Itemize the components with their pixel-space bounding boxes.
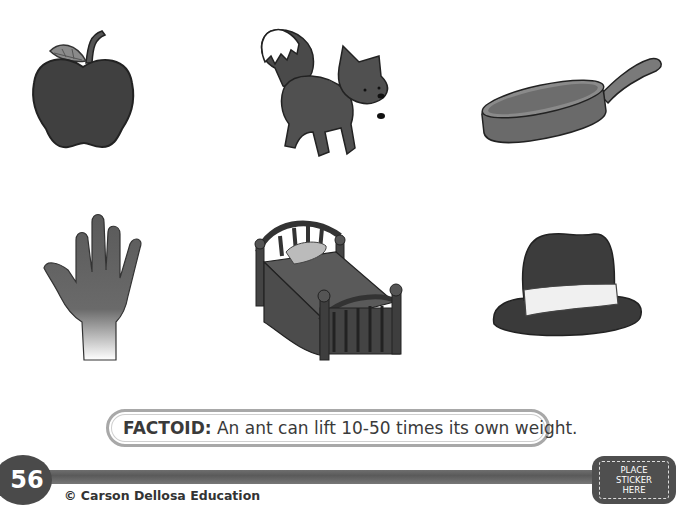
apple-icon <box>28 25 138 155</box>
factoid-label: FACTOID: <box>123 418 212 438</box>
sticker-line-1: PLACE <box>620 465 647 475</box>
fox-icon <box>255 28 405 168</box>
hat-icon <box>490 228 645 343</box>
footer-bar <box>40 470 610 484</box>
frying-pan-icon <box>480 55 670 145</box>
sticker-line-3: HERE <box>622 485 645 495</box>
sticker-line-2: STICKER <box>616 475 652 485</box>
page-number-badge: 56 <box>0 455 52 505</box>
sticker-placeholder: PLACE STICKER HERE <box>592 456 676 504</box>
hand-icon <box>42 212 152 362</box>
copyright-text: © Carson Dellosa Education <box>64 488 260 503</box>
factoid-box: FACTOID: An ant can lift 10-50 times its… <box>106 409 550 447</box>
factoid-text: FACTOID: An ant can lift 10-50 times its… <box>123 418 578 438</box>
bed-icon <box>250 212 410 367</box>
page-number: 56 <box>2 466 43 494</box>
factoid-body: An ant can lift 10-50 times its own weig… <box>212 418 578 438</box>
